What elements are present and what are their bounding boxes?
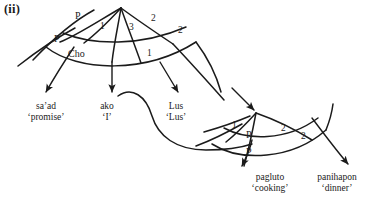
gloss-form: pagluto	[252, 172, 289, 183]
linguistic-diagram-figure: (ii) P P 1 3 2 2 Cho 1 1 P 2 2 P sa’ad ‘…	[0, 0, 369, 201]
upper-right-long-curve	[173, 44, 224, 100]
arc-label-p-lower-lower: P	[246, 147, 252, 157]
figure-enumerator: (ii)	[4, 3, 20, 16]
lower-outer-arc	[212, 130, 326, 156]
upper-far-right-curve	[196, 42, 221, 92]
arc-label-3-upper: 3	[129, 23, 134, 33]
arc-label-2-upper-inner: 2	[151, 14, 156, 24]
upper-ray-to-three	[121, 8, 141, 63]
arc-label-1-upper-lower: 1	[147, 49, 152, 59]
arc-label-1-lower: 1	[232, 121, 237, 131]
gloss-group-ako: ako ‘I’	[100, 101, 114, 122]
arrow-to-panihapon	[312, 118, 348, 164]
arc-label-p-lower-upper: P	[246, 130, 252, 140]
arrow-to-lus	[160, 62, 178, 92]
arrow-into-lower-node	[232, 88, 254, 110]
gloss-form: Lus	[166, 101, 187, 112]
arc-label-2-upper-outer: 2	[178, 26, 183, 36]
gloss-meaning: ‘Lus’	[166, 112, 187, 123]
gloss-form: ako	[100, 101, 114, 112]
arc-label-2-lower-inner: 2	[281, 124, 286, 134]
gloss-form: sa’ad	[28, 101, 65, 112]
gloss-meaning: ‘promise’	[28, 112, 65, 123]
gloss-group-panihapon: panihapon ‘dinner’	[317, 172, 357, 193]
arc-label-1-upper: 1	[100, 22, 105, 32]
gloss-group-saad: sa’ad ‘promise’	[28, 101, 65, 122]
gloss-meaning: ‘I’	[100, 112, 114, 123]
arc-label-cho: Cho	[68, 49, 85, 59]
gloss-group-lus: Lus ‘Lus’	[166, 101, 187, 122]
arc-label-2-lower-outer: 2	[301, 132, 306, 142]
gloss-form: panihapon	[317, 172, 357, 183]
arc-label-p-upper-left-lower: P	[54, 34, 60, 44]
gloss-group-pagluto: pagluto ‘cooking’	[252, 172, 289, 193]
arc-label-p-upper-left-outer: P	[75, 11, 81, 21]
gloss-meaning: ‘cooking’	[252, 183, 289, 194]
gloss-meaning: ‘dinner’	[317, 183, 357, 194]
lower-far-right-curve	[326, 104, 333, 130]
